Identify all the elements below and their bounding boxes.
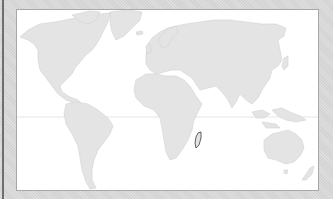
british-isles [146, 44, 151, 54]
greenland [110, 10, 142, 40]
south-america [64, 102, 113, 189]
southeast-asia-islands [252, 108, 306, 128]
australia [264, 130, 304, 164]
world-map [0, 0, 333, 199]
madagascar [195, 132, 201, 148]
tasmania [284, 170, 288, 174]
iceland [136, 31, 143, 35]
japan [282, 56, 288, 70]
new-zealand [302, 166, 314, 180]
north-america [20, 13, 110, 104]
